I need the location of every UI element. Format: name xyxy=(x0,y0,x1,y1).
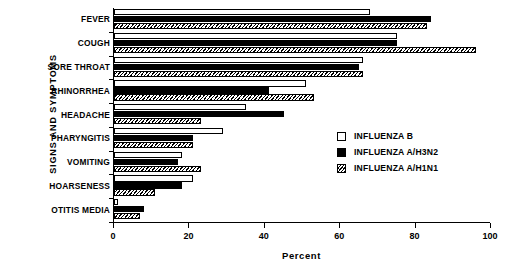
bar xyxy=(114,9,370,15)
black-square-icon xyxy=(337,148,346,157)
bar-group xyxy=(114,174,491,198)
y-axis-category-label: HEADACHE xyxy=(22,111,110,120)
bar xyxy=(114,80,306,86)
bar xyxy=(114,111,284,117)
bar-chart: SIGNS AND SYMPTOMS FEVERCOUGHSORE THROAT… xyxy=(0,0,507,271)
bar xyxy=(114,47,476,53)
bar xyxy=(114,23,427,29)
bar-group xyxy=(114,32,491,56)
bar-group xyxy=(114,79,491,103)
x-axis-tick xyxy=(490,223,491,228)
legend-item-label: INFLUENZA A/H1N1 xyxy=(354,163,438,173)
legend-item: INFLUENZA B xyxy=(337,128,438,144)
y-axis-category-label: RHINORRHEA xyxy=(22,87,110,96)
y-axis-category-label: SORE THROAT xyxy=(22,63,110,72)
x-axis-tick-label: 100 xyxy=(482,231,497,241)
bar xyxy=(114,104,246,110)
y-axis-category-label: OTITIS MEDIA xyxy=(22,206,110,215)
legend-item: INFLUENZA A/H3N2 xyxy=(337,144,438,160)
bar xyxy=(114,40,397,46)
y-axis-category-label: FEVER xyxy=(22,15,110,24)
x-axis: 020406080100 xyxy=(113,222,490,223)
bar xyxy=(114,71,363,77)
x-axis-tick-label: 20 xyxy=(183,231,193,241)
bar xyxy=(114,64,359,70)
x-axis-tick-label: 0 xyxy=(110,231,115,241)
bar xyxy=(114,128,223,134)
bar xyxy=(114,199,118,205)
bar xyxy=(114,94,314,100)
x-axis-tick xyxy=(339,223,340,228)
white-square-icon xyxy=(337,132,346,141)
y-axis-category-label: VOMITING xyxy=(22,158,110,167)
bar xyxy=(114,213,140,219)
bar xyxy=(114,33,397,39)
bar xyxy=(114,189,155,195)
x-axis-tick-label: 80 xyxy=(410,231,420,241)
legend-item: INFLUENZA A/H1N1 xyxy=(337,160,438,176)
y-axis-category-labels: FEVERCOUGHSORE THROATRHINORRHEAHEADACHEP… xyxy=(22,8,110,222)
chart-legend: INFLUENZA BINFLUENZA A/H3N2INFLUENZA A/H… xyxy=(337,128,438,176)
bar-group xyxy=(114,8,491,32)
bar xyxy=(114,175,193,181)
bar xyxy=(114,166,201,172)
bar xyxy=(114,87,269,93)
bar xyxy=(114,16,431,22)
x-axis-tick-label: 40 xyxy=(259,231,269,241)
bar xyxy=(114,118,201,124)
plot-area xyxy=(113,8,491,222)
bar xyxy=(114,206,144,212)
x-axis-tick xyxy=(264,223,265,228)
bar xyxy=(114,57,363,63)
bar-group xyxy=(114,56,491,80)
bar xyxy=(114,152,182,158)
bar xyxy=(114,142,193,148)
y-axis-category-label: HOARSENESS xyxy=(22,182,110,191)
bar xyxy=(114,182,182,188)
bar-group xyxy=(114,103,491,127)
bar-group xyxy=(114,198,491,222)
x-axis-title: Percent xyxy=(113,250,490,261)
x-axis-tick xyxy=(188,223,189,228)
x-axis-tick xyxy=(113,223,114,228)
hatched-square-icon xyxy=(337,164,346,173)
bar xyxy=(114,159,178,165)
x-axis-tick xyxy=(415,223,416,228)
y-axis-category-label: PHARYNGITIS xyxy=(22,134,110,143)
legend-item-label: INFLUENZA B xyxy=(354,131,413,141)
x-axis-tick-label: 60 xyxy=(334,231,344,241)
y-axis-category-label: COUGH xyxy=(22,39,110,48)
bar xyxy=(114,135,193,141)
legend-item-label: INFLUENZA A/H3N2 xyxy=(354,147,438,157)
